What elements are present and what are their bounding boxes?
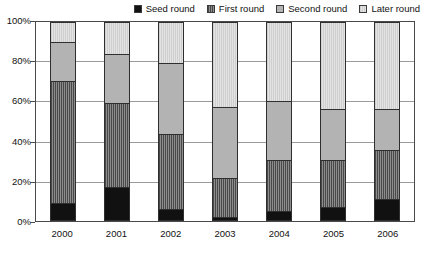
legend-label: First round <box>219 4 264 14</box>
x-axis-tick-label: 2004 <box>252 226 306 242</box>
legend-swatch-icon <box>276 5 284 13</box>
bar-segment-first <box>267 161 291 212</box>
bar-segment-second <box>105 55 129 104</box>
legend-label: Second round <box>288 4 347 14</box>
stacked-bar[interactable] <box>266 22 292 221</box>
bar-segment-second <box>375 110 399 151</box>
bar-segment-seed <box>267 212 291 220</box>
bar-segment-seed <box>51 204 75 220</box>
stacked-bar[interactable] <box>158 22 184 221</box>
bar-segment-later <box>375 23 399 110</box>
bar-segment-later <box>51 23 75 43</box>
bar-segment-first <box>105 104 129 189</box>
x-axis: 2000200120022003200420052006 <box>35 226 415 242</box>
bar-slot-2002 <box>144 22 198 221</box>
bar-segment-first <box>321 161 345 208</box>
bar-group <box>36 22 414 221</box>
bar-segment-seed <box>105 188 129 220</box>
stacked-bar[interactable] <box>50 22 76 221</box>
stacked-bar-chart: Seed roundFirst roundSecond roundLater r… <box>0 0 424 253</box>
legend-swatch-icon <box>134 5 142 13</box>
bar-slot-2006 <box>360 22 414 221</box>
x-axis-tick-label: 2001 <box>89 226 143 242</box>
stacked-bar[interactable] <box>104 22 130 221</box>
bar-segment-later <box>213 23 237 108</box>
bar-segment-seed <box>375 200 399 220</box>
bar-segment-first <box>213 179 237 218</box>
bar-segment-second <box>213 108 237 179</box>
y-axis-tick-label: 20% <box>0 177 31 187</box>
bar-segment-later <box>267 23 291 102</box>
bar-segment-second <box>159 64 183 135</box>
stacked-bar[interactable] <box>374 22 400 221</box>
bar-segment-second <box>267 102 291 161</box>
y-axis-tick-label: 60% <box>0 96 31 106</box>
y-axis-tick-label: 40% <box>0 137 31 147</box>
stacked-bar[interactable] <box>320 22 346 221</box>
legend-swatch-icon <box>359 5 367 13</box>
legend-item-later: Later round <box>359 4 420 14</box>
legend-item-first: First round <box>207 4 264 14</box>
y-axis-tick-label: 80% <box>0 56 31 66</box>
bar-segment-first <box>51 82 75 204</box>
bar-segment-second <box>321 110 345 161</box>
x-axis-tick-label: 2005 <box>306 226 360 242</box>
bar-segment-seed <box>159 210 183 220</box>
bar-slot-2005 <box>306 22 360 221</box>
x-axis-tick-label: 2003 <box>198 226 252 242</box>
legend-swatch-icon <box>207 5 215 13</box>
legend-item-second: Second round <box>276 4 347 14</box>
legend-label: Later round <box>371 4 420 14</box>
bar-slot-2004 <box>252 22 306 221</box>
bar-segment-seed <box>213 218 237 220</box>
y-axis-tick-label: 0% <box>0 217 31 227</box>
x-axis-tick-label: 2000 <box>35 226 89 242</box>
bar-segment-later <box>321 23 345 110</box>
bar-segment-first <box>375 151 399 200</box>
plot-area <box>35 21 415 222</box>
bar-slot-2001 <box>90 22 144 221</box>
y-axis-tick-mark <box>30 222 35 223</box>
bar-slot-2003 <box>198 22 252 221</box>
bar-segment-later <box>105 23 129 55</box>
x-axis-tick-label: 2002 <box>144 226 198 242</box>
bar-slot-2000 <box>36 22 90 221</box>
stacked-bar[interactable] <box>212 22 238 221</box>
bar-segment-first <box>159 135 183 210</box>
chart-legend: Seed roundFirst roundSecond roundLater r… <box>0 0 424 18</box>
bar-segment-later <box>159 23 183 64</box>
bar-segment-second <box>51 43 75 82</box>
legend-item-seed: Seed round <box>134 4 195 14</box>
bar-segment-seed <box>321 208 345 220</box>
legend-label: Seed round <box>146 4 195 14</box>
x-axis-tick-label: 2006 <box>361 226 415 242</box>
